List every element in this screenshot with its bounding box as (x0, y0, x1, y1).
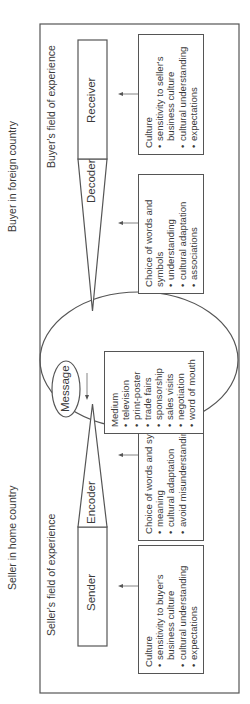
sender-label: Sender (85, 574, 97, 611)
list-item: trade fairs (142, 358, 153, 427)
list-item: sponsorship (153, 358, 164, 427)
buyer-words-box: Choice of words and symbols understandin… (138, 174, 204, 294)
box-title: Medium (109, 358, 120, 427)
box-title: Culture (143, 41, 154, 148)
buyer-field-label: Buyer's field of experience (45, 45, 57, 168)
list-item: television (120, 358, 131, 427)
decoder-label: Decoder (85, 160, 97, 203)
list-item: cultural understanding (177, 552, 188, 667)
encoder-label: Encoder (85, 481, 97, 524)
list-item: expectations (188, 41, 199, 148)
list-item: negotiation (175, 358, 186, 427)
list-item: word of mouth (186, 358, 197, 427)
communication-process-diagram: Seller in home country Buyer in foreign … (0, 0, 250, 704)
list-item: expectations (188, 552, 199, 667)
list-item: associations (188, 181, 199, 287)
list-item: understanding (165, 181, 176, 287)
seller-field-label: Seller's field of experience (45, 514, 57, 636)
list-item: cultural adaptation (177, 181, 188, 287)
list-item: print-poster (131, 358, 142, 427)
buyer-culture-box: Culture sensitivity to seller's business… (138, 34, 204, 155)
message-label: Message (59, 365, 71, 412)
list-item: sensitivity to seller's business culture (154, 41, 176, 148)
receiver-label: Receiver (85, 78, 97, 123)
box-title: Culture (143, 552, 154, 667)
medium-box: Medium television print-poster trade fai… (104, 351, 204, 434)
list-item: sales visits (164, 358, 175, 427)
list-item: cultural understanding (177, 41, 188, 148)
list-item: sensitivity to buyer's business culture (154, 552, 176, 667)
box-title: Choice of words and symbols (143, 181, 165, 287)
seller-culture-box: Culture sensitivity to buyer's business … (138, 545, 204, 674)
